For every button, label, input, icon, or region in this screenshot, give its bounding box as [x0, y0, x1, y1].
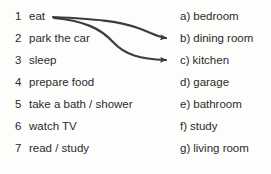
- room-item-4[interactable]: e)bathroom: [172, 94, 242, 116]
- room-marker: c): [180, 55, 190, 67]
- activity-label: eat: [29, 11, 45, 23]
- activity-marker: 1: [15, 11, 29, 23]
- room-item-1[interactable]: b)dining room: [172, 28, 253, 50]
- activity-label: park the car: [29, 33, 90, 45]
- activity-label: sleep: [29, 55, 57, 67]
- matching-exercise: 1eat2park the car3sleep4prepare food5tak…: [0, 0, 271, 174]
- room-label: garage: [193, 77, 229, 89]
- room-marker: d): [180, 77, 190, 89]
- room-marker: b): [180, 33, 190, 45]
- activity-marker: 3: [15, 55, 29, 67]
- activity-item-0[interactable]: 1eat: [0, 6, 45, 28]
- activity-item-2[interactable]: 3sleep: [0, 50, 57, 72]
- activity-marker: 5: [15, 99, 29, 111]
- activity-item-6[interactable]: 7read / study: [0, 138, 89, 160]
- activity-label: watch TV: [29, 121, 77, 133]
- room-label: kitchen: [193, 55, 229, 67]
- activity-item-4[interactable]: 5take a bath / shower: [0, 94, 133, 116]
- room-label: bathroom: [193, 99, 242, 111]
- activity-marker: 7: [15, 143, 29, 155]
- activity-item-3[interactable]: 4prepare food: [0, 72, 94, 94]
- activity-label: read / study: [29, 143, 89, 155]
- room-marker: a): [180, 11, 190, 23]
- room-label: bedroom: [193, 11, 238, 23]
- room-item-6[interactable]: g)living room: [172, 138, 249, 160]
- activity-label: prepare food: [29, 77, 94, 89]
- room-marker: g): [180, 143, 190, 155]
- room-item-2[interactable]: c)kitchen: [172, 50, 229, 72]
- activity-marker: 4: [15, 77, 29, 89]
- room-label: study: [190, 121, 218, 133]
- room-item-3[interactable]: d)garage: [172, 72, 229, 94]
- activity-marker: 2: [15, 33, 29, 45]
- room-marker: e): [180, 99, 190, 111]
- activity-item-1[interactable]: 2park the car: [0, 28, 90, 50]
- room-item-5[interactable]: f)study: [172, 116, 218, 138]
- room-label: dining room: [193, 33, 253, 45]
- activity-item-5[interactable]: 6watch TV: [0, 116, 77, 138]
- activity-label: take a bath / shower: [29, 99, 133, 111]
- activity-marker: 6: [15, 121, 29, 133]
- room-item-0[interactable]: a)bedroom: [172, 6, 239, 28]
- room-marker: f): [180, 121, 187, 133]
- room-label: living room: [193, 143, 249, 155]
